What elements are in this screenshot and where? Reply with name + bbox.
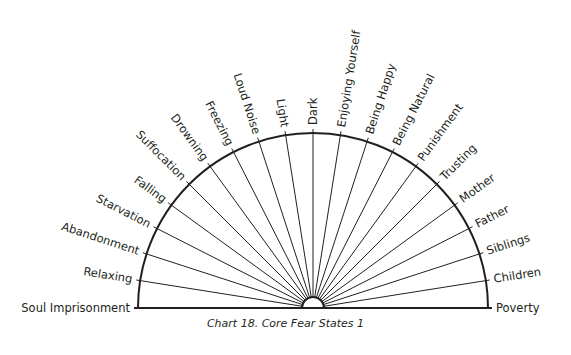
chart-spoke bbox=[186, 181, 305, 300]
chart-label-being-happy: Being Happy bbox=[362, 62, 398, 136]
chart-spoke bbox=[324, 280, 490, 306]
chart-label-starvation: Starvation bbox=[94, 191, 153, 230]
chart-spoke bbox=[232, 149, 308, 299]
chart-label-relaxing: Relaxing bbox=[82, 264, 133, 286]
chart-label-abandonment: Abandonment bbox=[60, 219, 142, 258]
chart-spoke bbox=[285, 131, 311, 297]
chart-spoke bbox=[136, 280, 302, 306]
chart-label-light: Light bbox=[273, 98, 291, 129]
chart-label-siblings: Siblings bbox=[485, 230, 532, 257]
chart-spoke bbox=[318, 149, 394, 299]
chart-spokes bbox=[136, 129, 490, 306]
chart-label-soul-imprisonment: Soul Imprisonment bbox=[21, 301, 130, 315]
chart-label-falling: Falling bbox=[131, 173, 169, 206]
chart-spoke bbox=[323, 227, 473, 303]
chart-spoke bbox=[321, 181, 440, 300]
chart-label-drowning: Drowning bbox=[168, 111, 212, 164]
chart-label-freezing: Freezing bbox=[202, 99, 236, 148]
chart-label-enjoying-yourself: Enjoying Yourself bbox=[334, 28, 363, 128]
chart-spoke bbox=[154, 227, 304, 303]
chart-label-father: Father bbox=[473, 202, 512, 231]
chart-spoke bbox=[315, 131, 341, 297]
chart-label-poverty: Poverty bbox=[496, 301, 540, 315]
chart-label-dark: Dark bbox=[306, 97, 320, 125]
chart-caption: Chart 18. Core Fear States 1 bbox=[0, 317, 571, 330]
chart-label-loud-noise: Loud Noise bbox=[231, 71, 264, 136]
chart-label-trusting: Trusting bbox=[436, 141, 479, 184]
inner-semicircle-hub bbox=[302, 297, 324, 308]
chart-label-children: Children bbox=[493, 264, 542, 285]
chart-labels: Soul ImprisonmentRelaxingAbandonmentStar… bbox=[21, 28, 542, 314]
core-fear-states-chart: Soul ImprisonmentRelaxingAbandonmentStar… bbox=[0, 0, 571, 355]
chart-label-mother: Mother bbox=[457, 170, 498, 205]
